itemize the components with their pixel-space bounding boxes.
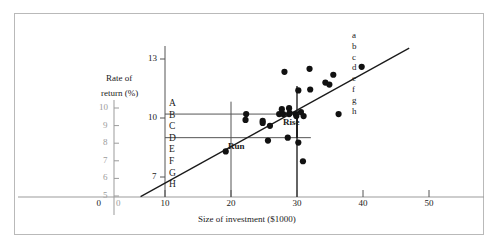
data-point — [260, 120, 266, 126]
right-letter-g: g — [352, 96, 357, 105]
data-point — [243, 111, 249, 117]
data-point — [306, 66, 312, 72]
right-letter-d: d — [352, 63, 357, 72]
ghost-axis-group — [18, 100, 484, 215]
ghost-origin-label: 0 — [116, 199, 121, 208]
data-point — [265, 138, 271, 144]
ghost-y-tick-label: 8 — [103, 138, 108, 147]
x-axis-title: Size of investment ($1000) — [198, 215, 296, 224]
right-letter-e: e — [352, 74, 356, 83]
data-point — [307, 86, 313, 92]
y-tick-label: 13 — [148, 54, 157, 63]
y-tick-label: 10 — [148, 113, 157, 122]
right-letter-f: f — [352, 85, 355, 94]
annotation-rise: Rise — [283, 118, 300, 127]
y-axis-title-line1: Rate of — [106, 74, 132, 83]
data-point — [279, 106, 285, 112]
chart-canvas — [0, 0, 499, 249]
right-letter-a: a — [352, 31, 356, 40]
x-tick-label: 30 — [293, 199, 302, 208]
ghost-y-tick-label: 7 — [103, 156, 108, 165]
ghost-y-tick-label: 6 — [103, 173, 108, 182]
x-tick-label: 50 — [425, 199, 434, 208]
data-point — [285, 135, 291, 141]
left-letter-H: H — [169, 180, 176, 190]
data-point — [330, 72, 336, 78]
right-letter-h: h — [352, 107, 357, 116]
x-tick-label: 40 — [359, 199, 368, 208]
annotation-run: Run — [228, 142, 245, 151]
left-letter-D: D — [169, 134, 176, 144]
data-point — [335, 111, 341, 117]
data-point — [295, 87, 301, 93]
left-letter-C: C — [169, 122, 175, 132]
data-point — [281, 69, 287, 75]
y-axis-title-line2: return (%) — [101, 89, 138, 98]
right-letter-b: b — [352, 42, 357, 51]
x-tick-label: 10 — [161, 199, 170, 208]
data-point — [300, 158, 306, 164]
right-letter-c: c — [352, 53, 356, 62]
data-point — [301, 113, 307, 119]
data-point — [326, 81, 332, 87]
left-letter-E: E — [169, 145, 175, 155]
x-tick-label: 0 — [97, 199, 102, 208]
ghost-y-tick-label: 5 — [103, 191, 108, 200]
regression-line — [141, 48, 410, 196]
y-tick-label: 7 — [152, 172, 157, 181]
left-letter-A: A — [169, 99, 176, 109]
left-letter-B: B — [169, 111, 175, 121]
x-tick-label: 20 — [227, 199, 236, 208]
figure-frame: 109876500102030405013107ABCDEFGHabcdefgh… — [0, 0, 499, 249]
left-letter-F: F — [169, 157, 174, 167]
data-point — [242, 117, 248, 123]
ghost-y-tick-label: 10 — [99, 103, 108, 112]
data-point — [267, 123, 273, 129]
ghost-y-tick-label: 9 — [103, 121, 108, 130]
data-point — [359, 64, 365, 70]
left-letter-G: G — [169, 169, 176, 179]
data-point — [287, 110, 293, 116]
data-point — [295, 139, 301, 145]
